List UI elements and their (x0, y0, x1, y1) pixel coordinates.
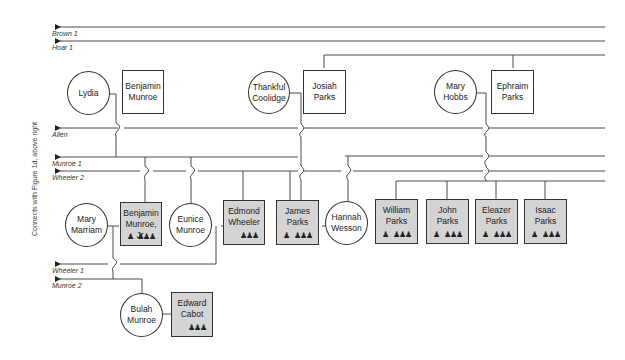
person-bulah-munroe[interactable]: BulahMunroe (120, 293, 163, 337)
person-lydia[interactable]: Lydia (67, 71, 110, 115)
label-allen: Allen (51, 131, 68, 138)
person-benjamin-munroe-jr[interactable]: BenjaminMunroe, Jr. ♟♟♟♟ (120, 202, 162, 246)
person-josiah-parks[interactable]: JosiahParks (303, 70, 346, 114)
person-hannah-wesson[interactable]: HannahWesson (325, 201, 368, 245)
soldiers-icon: ♟♟♟ (240, 231, 258, 240)
soldiers-icon: ♟♟♟ (393, 230, 411, 239)
label-munroe2: Munroe 2 (52, 282, 82, 289)
person-thankful-coolidge[interactable]: ThankfulCoolidge (248, 71, 290, 114)
soldiers-icon: ♟♟♟ (294, 231, 312, 240)
side-note: Connects with Figure 1d, above right (31, 122, 39, 236)
label-brown1: Brown 1 (52, 30, 78, 37)
officer-icon: ♟ (482, 230, 488, 239)
soldiers-icon: ♟♟♟ (137, 232, 155, 241)
label-hoar1: Hoar 1 (52, 44, 73, 51)
officer-icon: ♟ (433, 230, 439, 239)
person-mary-marriam[interactable]: MaryMarriam (65, 203, 108, 247)
person-eunice-munroe[interactable]: EuniceMunroe (169, 203, 212, 247)
officer-icon: ♟ (382, 230, 388, 239)
label-munroe1: Munroe 1 (52, 160, 82, 167)
soldiers-icon: ♟♟♟ (444, 230, 462, 239)
soldiers-icon: ♟♟♟ (188, 323, 206, 332)
officer-icon: ♟ (127, 232, 133, 241)
officer-icon: ♟ (283, 231, 289, 240)
lineage-connectors: Connects with Figure 1d, above right Bro… (0, 0, 625, 360)
label-wheeler2: Wheeler 2 (52, 174, 84, 181)
descent-munroe (115, 94, 119, 157)
person-eleazer-parks[interactable]: EleazerParks ♟♟♟♟ (475, 199, 518, 244)
person-ephraim-parks[interactable]: EphraimParks (491, 70, 534, 114)
person-isaac-parks[interactable]: IsaacParks ♟♟♟♟ (524, 199, 567, 244)
officer-icon: ♟ (531, 230, 537, 239)
person-edward-cabot[interactable]: EdwardCabot ♟♟♟ (171, 292, 213, 337)
person-edmond-wheeler[interactable]: EdmondWheeler ♟♟♟ (223, 200, 265, 245)
person-mary-hobbs[interactable]: MaryHobbs (434, 70, 477, 114)
person-william-parks[interactable]: WilliamParks ♟♟♟♟ (375, 199, 418, 244)
person-james-parks[interactable]: JamesParks ♟♟♟♟ (276, 200, 319, 245)
soldiers-icon: ♟♟♟ (542, 230, 560, 239)
soldiers-icon: ♟♟♟ (493, 230, 511, 239)
connector-josiah-parks-parent (324, 55, 605, 68)
person-john-parks[interactable]: JohnParks ♟♟♟♟ (426, 199, 469, 244)
label-wheeler1: Wheeler 1 (52, 267, 84, 274)
person-benjamin-munroe[interactable]: BenjaminMunroe (122, 70, 164, 114)
